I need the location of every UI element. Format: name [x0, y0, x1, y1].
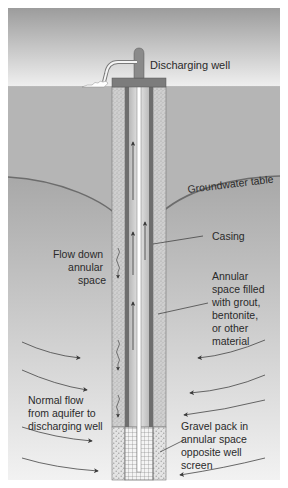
label-line: or other [212, 322, 249, 334]
well-cap [112, 78, 166, 87]
label-line: space [78, 274, 106, 286]
label-line: Gravel pack in [181, 420, 248, 432]
label-line: from aquifer to [28, 407, 96, 419]
label-line: discharging well [28, 420, 103, 432]
label-line: material [212, 335, 249, 347]
label-casing: Casing [212, 230, 245, 242]
annular-space-right [153, 87, 166, 427]
label-line: annular space [181, 433, 247, 445]
label-line: opposite well [181, 446, 242, 458]
label-line: space filled [212, 283, 265, 295]
label-line: Normal flow [28, 394, 84, 406]
discharge-pipe [137, 56, 141, 472]
label-line: annular [68, 261, 104, 273]
gravel-pack-left [112, 427, 125, 480]
label-line: Annular [212, 270, 249, 282]
label-line: Flow down [53, 248, 103, 260]
casing-wall-left [125, 87, 129, 427]
label-line: with grout, [211, 296, 260, 308]
well-diagram: Discharging well Groundwater table Casin… [0, 0, 288, 488]
casing-wall-right [149, 87, 153, 427]
gravel-pack-right [153, 427, 166, 480]
label-discharging-well: Discharging well [150, 59, 230, 71]
label-line: screen [181, 459, 213, 471]
annular-space-left [112, 87, 125, 427]
label-line: bentonite, [212, 309, 258, 321]
